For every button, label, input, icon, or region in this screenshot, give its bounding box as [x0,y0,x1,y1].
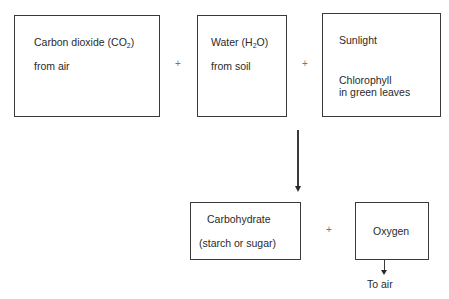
co2-label-suffix: ) [131,36,135,48]
co2-label: Carbon dioxide (CO2) [34,36,134,48]
green-leaves-label: in green leaves [339,86,410,98]
oxygen-arrow-head-icon [381,270,387,275]
water-box: Water (H2O) from soil [197,15,287,117]
water-label-suffix: O) [257,36,269,48]
co2-box: Carbon dioxide (CO2) from air [14,15,160,117]
oxygen-box: Oxygen [355,202,429,260]
chlorophyll-label: Chlorophyll [339,74,392,86]
water-label-prefix: Water (H [211,36,253,48]
reaction-arrow-head-icon [295,186,301,192]
carbohydrate-label: Carbohydrate [207,213,271,225]
plus-sign-1: + [175,58,181,69]
reaction-arrow-shaft [297,130,299,188]
co2-label-prefix: Carbon dioxide (CO [34,36,127,48]
co2-source: from air [34,60,70,72]
water-source: from soil [211,60,251,72]
plus-sign-3: + [326,224,332,235]
sunlight-label: Sunlight [339,34,377,46]
plus-sign-2: + [302,58,308,69]
sunlight-chlorophyll-box: Sunlight Chlorophyll in green leaves [322,13,441,117]
to-air-label: To air [367,278,393,290]
oxygen-label: Oxygen [373,225,409,237]
carbohydrate-box: Carbohydrate (starch or sugar) [190,202,301,260]
carbohydrate-detail: (starch or sugar) [199,237,276,249]
water-label: Water (H2O) [211,36,268,48]
